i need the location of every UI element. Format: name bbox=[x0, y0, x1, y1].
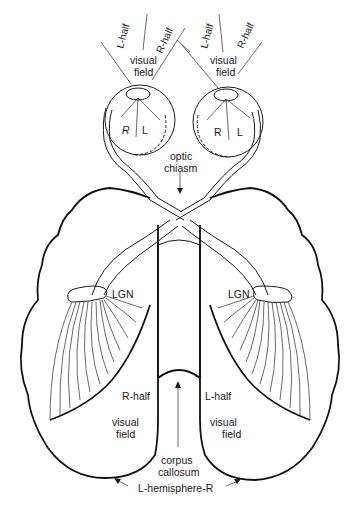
right-lgn-label: LGN bbox=[228, 288, 250, 300]
chiasm-label: chiasm bbox=[164, 162, 198, 174]
left-hemisphere bbox=[21, 188, 158, 478]
left-eye-visual-label: visual bbox=[130, 54, 157, 66]
left-eye-retina-l-label: L bbox=[142, 124, 148, 136]
left-eye-field-label: field bbox=[134, 66, 153, 78]
right-eye-retina-l-label: L bbox=[237, 126, 243, 138]
left-visual-label: visual bbox=[112, 416, 139, 428]
callosum-arrow-icon bbox=[175, 381, 181, 388]
left-lgn bbox=[68, 286, 107, 302]
left-eye-ray bbox=[121, 98, 138, 117]
right-field-label: field bbox=[222, 428, 241, 440]
right-hemisphere bbox=[200, 188, 339, 480]
corpus-callosum bbox=[158, 240, 200, 447]
right-hemisphere-arrow-icon bbox=[234, 479, 241, 484]
corpus-label: corpus bbox=[161, 454, 193, 466]
right-eye-ray bbox=[226, 99, 250, 118]
chiasm-fiber bbox=[158, 198, 182, 212]
left-eye-field-midline bbox=[143, 14, 147, 50]
right-calcarine-boundary bbox=[210, 305, 310, 420]
right-eye-ray bbox=[226, 99, 229, 140]
left-eyeball bbox=[105, 85, 175, 155]
left-hemisphere-arrow-icon bbox=[114, 478, 121, 484]
left-field-label: field bbox=[116, 428, 135, 440]
left-hemisphere-outline bbox=[21, 188, 158, 478]
left-eye-retina bbox=[133, 115, 166, 155]
optic-chiasm bbox=[150, 172, 210, 220]
left-eye-r-half-label: R-half bbox=[154, 26, 175, 55]
left-eye-tick bbox=[177, 40, 190, 52]
left-optic-tract-inner bbox=[104, 226, 178, 295]
right-eye-visual-label: visual bbox=[210, 54, 237, 66]
chiasm-fiber bbox=[180, 198, 204, 212]
left-eye-l-half-label: L-half bbox=[114, 22, 131, 49]
callosum-label: callosum bbox=[158, 466, 200, 478]
optic-tracts bbox=[92, 220, 268, 295]
right-eye-field-label: field bbox=[216, 66, 235, 78]
right-eye-field-midline bbox=[219, 14, 223, 52]
right-optic-tract-inner bbox=[182, 226, 256, 295]
right-l-half-label: L-half bbox=[205, 390, 231, 402]
chiasm-fiber bbox=[176, 200, 210, 220]
chiasm-arrow-icon bbox=[177, 188, 183, 194]
right-eye-retina-r-label: R bbox=[214, 126, 222, 138]
optic-label: optic bbox=[170, 150, 192, 162]
left-calcarine-boundary bbox=[50, 305, 150, 420]
left-eye-retina-r-label: R bbox=[122, 124, 130, 136]
callosum-bottom bbox=[158, 370, 200, 378]
right-eye-field-boundary-left bbox=[182, 45, 218, 88]
visual-pathway-diagram: L-half R-half visual field R L L-half R-… bbox=[0, 0, 354, 509]
left-optic-nerve-outer bbox=[103, 108, 150, 200]
left-eye-ray bbox=[136, 98, 138, 137]
right-eye-l-half-label: L-half bbox=[198, 22, 215, 49]
right-optic-tract-outer bbox=[190, 220, 268, 295]
hemisphere-label: L-hemisphere-R bbox=[138, 482, 214, 494]
right-eye-r-half-label: R-half bbox=[235, 21, 256, 50]
right-lgn bbox=[253, 286, 292, 303]
left-lgn-label: LGN bbox=[112, 288, 134, 300]
right-visual-label: visual bbox=[210, 416, 237, 428]
left-eye-ray bbox=[138, 98, 160, 120]
left-r-half-label: R-half bbox=[122, 390, 150, 402]
right-optic-nerve-inner bbox=[204, 112, 255, 198]
right-eye-ray bbox=[207, 99, 226, 120]
callosum-top bbox=[158, 240, 200, 245]
left-eye-field-boundary-left bbox=[101, 42, 131, 84]
